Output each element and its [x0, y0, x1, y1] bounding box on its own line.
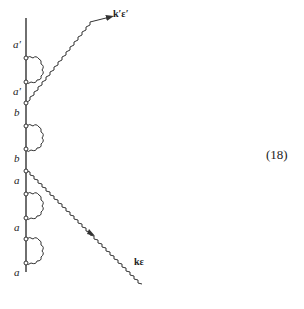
feynman-diagram: [0, 0, 304, 309]
equation-number: (18): [266, 147, 288, 163]
incoming-photon: [26, 171, 142, 284]
self-energy-loop-2: [26, 125, 43, 152]
self-energy-loop-3: [26, 193, 43, 220]
self-energy-loop-4: [26, 238, 43, 265]
outgoing-photon: [26, 21, 94, 103]
state-label: a: [14, 266, 20, 278]
outgoing-arrow-icon: [94, 17, 110, 21]
state-label: a′: [13, 85, 21, 97]
state-label: b: [14, 152, 20, 164]
photon-out-label: k′ε′: [113, 8, 128, 19]
self-energy-loop-1: [26, 57, 43, 84]
incoming-arrow-icon: [87, 229, 95, 236]
state-label: a: [14, 221, 20, 233]
photon-in-label: kε: [134, 256, 144, 267]
state-label: b: [14, 106, 20, 118]
state-label: a: [14, 174, 20, 186]
state-label: a′: [13, 38, 21, 50]
